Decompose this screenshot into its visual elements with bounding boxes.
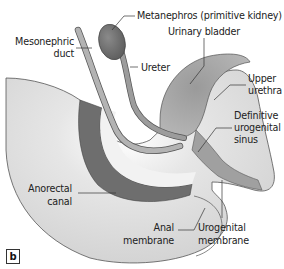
label-metanephros: Metanephros (primitive kidney) — [137, 10, 282, 21]
label-mesonephric-duct-2: duct — [12, 48, 74, 59]
label-anal-membrane-2: membrane — [100, 235, 174, 246]
panel-letter-badge: b — [6, 249, 20, 264]
label-definitive-ug-sinus-2: urogenital — [234, 122, 281, 133]
label-anorectal-canal-1: Anorectal — [10, 183, 72, 194]
label-urinary-bladder: Urinary bladder — [168, 26, 240, 37]
label-upper-urethra-1: Upper — [248, 73, 276, 84]
label-definitive-ug-sinus-3: sinus — [234, 134, 258, 145]
label-definitive-ug-sinus-1: Definitive — [234, 110, 278, 121]
label-anal-membrane-1: Anal — [100, 222, 174, 233]
label-upper-urethra-2: urethra — [248, 85, 282, 96]
label-ureter: Ureter — [141, 62, 170, 73]
label-anorectal-canal-2: canal — [10, 196, 72, 207]
label-mesonephric-duct-1: Mesonephric — [12, 36, 74, 47]
label-urogenital-membrane-1: Urogenital — [198, 222, 246, 233]
label-urogenital-membrane-2: membrane — [198, 235, 249, 246]
